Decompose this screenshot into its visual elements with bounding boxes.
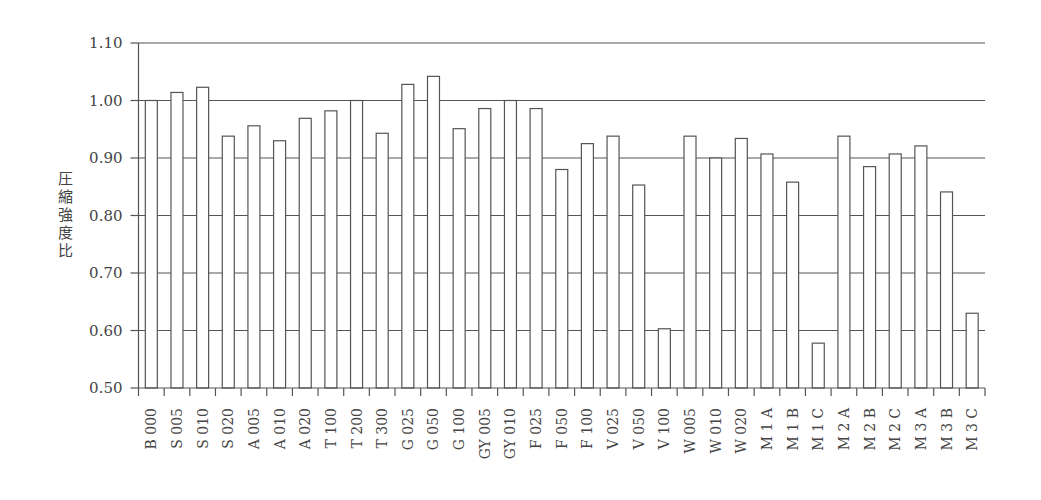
x-tick-label: GY 010	[502, 408, 518, 459]
bar-m1c	[812, 343, 824, 388]
y-tick-label: 0.90	[89, 149, 122, 167]
bar-gy005	[479, 109, 491, 388]
bar-m1b	[787, 182, 799, 388]
x-tick-label: F 100	[579, 408, 595, 449]
x-tick-label: T 300	[374, 408, 390, 449]
x-tick-label: V 025	[605, 408, 621, 450]
y-tick-label: 1.00	[89, 92, 122, 110]
x-tick-label: W 010	[708, 408, 724, 454]
y-axis-label-char: 縮	[58, 188, 73, 206]
bar-m2a	[838, 136, 850, 388]
x-tick-label: M 2 B	[862, 408, 878, 450]
x-tick-label: M 1 B	[785, 408, 801, 450]
x-tick-label: V 100	[656, 408, 672, 450]
x-tick-label: M 2 C	[887, 408, 903, 451]
bar-m3b	[941, 192, 953, 388]
bar-g025	[402, 84, 414, 388]
bar-v025	[607, 136, 619, 388]
x-axis-ticks: B 000S 005S 010S 020A 005A 010A 020T 100…	[139, 388, 986, 459]
y-tick-label: 0.60	[89, 322, 122, 340]
y-axis-label-char: 圧	[58, 170, 73, 188]
x-tick-label: M 2 A	[836, 407, 852, 450]
bar-m1a	[761, 154, 773, 388]
bar-m3a	[915, 146, 927, 388]
y-axis-label-char: 比	[58, 242, 73, 260]
x-tick-label: M 3 A	[913, 407, 929, 450]
x-tick-label: GY 005	[477, 408, 493, 459]
bar-w010	[710, 158, 722, 388]
x-tick-label: M 3 B	[939, 408, 955, 450]
x-tick-label: S 005	[169, 408, 185, 449]
x-tick-label: G 025	[400, 408, 416, 450]
x-tick-label: T 100	[323, 408, 339, 449]
x-tick-label: W 005	[682, 408, 698, 454]
y-axis-ticks: 0.500.600.700.800.901.001.10	[89, 34, 138, 397]
bar-m2b	[864, 167, 876, 388]
x-tick-label: A 005	[246, 408, 262, 450]
bars	[145, 76, 978, 388]
x-tick-label: B 000	[143, 408, 159, 449]
x-tick-label: F 025	[528, 408, 544, 449]
x-tick-label: V 050	[631, 408, 647, 450]
x-tick-label: G 050	[425, 408, 441, 450]
x-tick-label: M 1 C	[810, 408, 826, 451]
bar-t200	[351, 101, 363, 389]
bar-chart: 0.500.600.700.800.901.001.10 B 000S 005S…	[0, 0, 1041, 500]
bar-f025	[530, 109, 542, 388]
bar-m3c	[966, 313, 978, 388]
x-tick-label: T 200	[349, 408, 365, 449]
bar-gy010	[504, 101, 516, 389]
x-tick-label: S 020	[220, 408, 236, 449]
bar-s020	[222, 136, 234, 388]
y-tick-label: 1.10	[89, 34, 122, 52]
bar-a020	[299, 118, 311, 388]
x-tick-label: W 020	[733, 408, 749, 454]
bar-t100	[325, 111, 337, 388]
x-tick-label: F 050	[554, 408, 570, 449]
bar-b000	[145, 101, 157, 389]
bar-g100	[453, 129, 465, 388]
bar-s010	[197, 87, 209, 388]
bar-m2c	[889, 154, 901, 388]
y-axis-label-char: 度	[58, 224, 73, 242]
bar-v050	[633, 185, 645, 388]
y-tick-label: 0.50	[89, 379, 122, 397]
y-tick-label: 0.80	[89, 207, 122, 225]
bar-w005	[684, 136, 696, 388]
bar-s005	[171, 92, 183, 388]
x-tick-label: M 1 A	[759, 407, 775, 450]
x-tick-label: A 010	[272, 408, 288, 450]
bar-w020	[735, 138, 747, 388]
bar-g050	[427, 76, 439, 388]
bar-t300	[376, 133, 388, 388]
bar-v100	[658, 329, 670, 388]
x-tick-label: G 100	[451, 408, 467, 450]
chart-canvas: 0.500.600.700.800.901.001.10 B 000S 005S…	[0, 0, 1041, 500]
bar-f100	[581, 144, 593, 388]
bar-f050	[556, 170, 568, 389]
bar-a005	[248, 126, 260, 388]
x-tick-label: S 010	[195, 408, 211, 449]
y-axis-label-char: 強	[58, 206, 73, 224]
y-tick-label: 0.70	[89, 264, 122, 282]
x-tick-label: M 3 C	[964, 408, 980, 451]
x-tick-label: A 020	[297, 408, 313, 450]
y-axis-label: 圧縮強度比	[58, 170, 73, 260]
bar-a010	[274, 141, 286, 388]
